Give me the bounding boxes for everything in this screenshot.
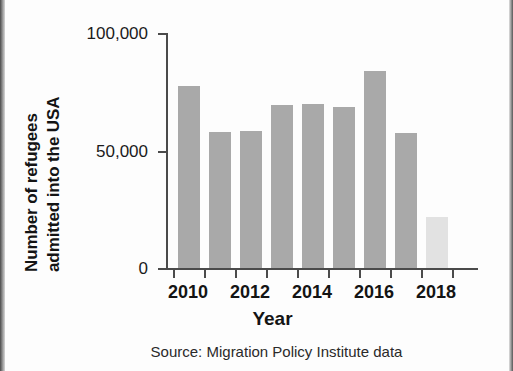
x-axis-tick <box>390 269 392 278</box>
x-axis-tick <box>452 269 454 278</box>
x-axis-tick-label-2016: 2016 <box>354 282 394 303</box>
y-axis-tick: 100,000 <box>158 33 167 35</box>
bar-2014 <box>302 104 324 269</box>
bar-2012 <box>240 131 262 268</box>
y-axis-tick-label: 50,000 <box>96 142 148 162</box>
x-axis-tick <box>204 269 206 278</box>
y-axis-tick-label: 100,000 <box>87 24 148 44</box>
plot-area: 050,000100,000 20102012201420162018 <box>166 33 478 268</box>
source-caption: Source: Migration Policy Institute data <box>20 343 513 360</box>
x-axis-tick <box>235 269 237 278</box>
x-axis-tick-label-2012: 2012 <box>230 282 270 303</box>
bar-2013 <box>271 105 293 268</box>
x-axis-tick <box>297 269 299 278</box>
x-axis-tick-label-2018: 2018 <box>416 282 456 303</box>
bar-2016 <box>364 71 386 268</box>
y-axis-title-line-2: admitted into the USA <box>44 97 64 272</box>
bar-2015 <box>333 107 355 268</box>
bar-2018 <box>426 217 448 268</box>
x-axis-tick-label-2010: 2010 <box>168 282 208 303</box>
x-axis-tick <box>266 269 268 278</box>
x-axis-line <box>166 268 478 270</box>
x-axis-tick-label-2014: 2014 <box>292 282 332 303</box>
bar-2017 <box>395 133 417 268</box>
page-edge-left <box>0 0 5 371</box>
y-axis-tick: 50,000 <box>158 151 167 153</box>
x-axis-tick <box>173 269 175 278</box>
x-axis-tick <box>421 269 423 278</box>
y-axis-tick-label: 0 <box>139 259 148 279</box>
y-axis-tick: 0 <box>158 268 167 270</box>
x-axis-tick <box>328 269 330 278</box>
bar-chart-figure: Number of refugees admitted into the USA… <box>0 0 513 371</box>
y-axis-title-line-1: Number of refugees <box>22 113 42 272</box>
bar-2010 <box>178 86 200 268</box>
x-axis-title: Year <box>16 308 513 330</box>
y-axis-title: Number of refugees admitted into the USA <box>22 14 94 272</box>
x-axis-tick <box>359 269 361 278</box>
bar-2011 <box>209 132 231 268</box>
